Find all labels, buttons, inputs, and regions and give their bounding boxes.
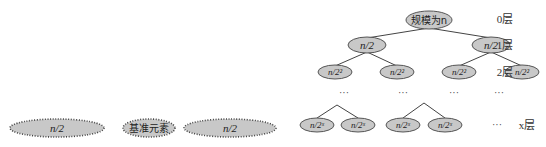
levelx-node-label: n/2ˣ: [438, 120, 453, 130]
recursion-tree-diagram: n/2 基准元素 n/2 规模为n n/2 n/2 n/2² n/2² n/: [0, 0, 546, 147]
layer-label-1: 1层: [497, 39, 514, 51]
level2-node-label: n/2²: [515, 67, 530, 77]
levelx-node-label: n/2ˣ: [310, 120, 325, 130]
ellipsis: ···: [492, 119, 502, 130]
levelx-node-label: n/2ˣ: [351, 120, 366, 130]
partition-illustration: n/2 基准元素 n/2: [10, 119, 276, 137]
root-label: 规模为n: [411, 14, 447, 26]
pivot-label: 基准元素: [129, 122, 169, 134]
layer-label-x: x层: [519, 119, 536, 131]
tree-level-x: n/2ˣ n/2ˣ n/2ˣ n/2ˣ ···: [300, 118, 502, 132]
level2-node-label: n/2²: [328, 67, 343, 77]
tree-root: 规模为n: [406, 11, 452, 29]
tree-level-1: n/2 n/2: [348, 37, 510, 53]
level2-node-label: n/2²: [390, 67, 405, 77]
right-partition-label: n/2: [223, 122, 238, 134]
level1-node-label: n/2: [360, 39, 375, 51]
layer-label-0: 0层: [497, 13, 514, 25]
ellipsis: ···: [494, 87, 504, 98]
ellipsis: ···: [339, 87, 349, 98]
left-partition-label: n/2: [50, 122, 65, 134]
ellipsis: ···: [449, 87, 459, 98]
tree-ellipsis-row: ··· ··· ··· ···: [339, 87, 504, 98]
layer-label-2: 2层: [497, 66, 514, 78]
level2-node-label: n/2²: [452, 67, 467, 77]
ellipsis: ···: [398, 87, 408, 98]
levelx-node-label: n/2ˣ: [396, 120, 411, 130]
